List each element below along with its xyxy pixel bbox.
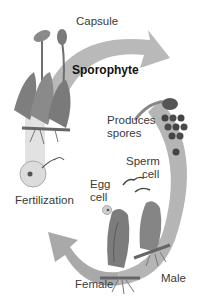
egg-cell-label: Egg cell <box>90 178 110 204</box>
fertilization-label: Fertilization <box>15 194 74 207</box>
sporophyte-label: Sporophyte <box>72 64 139 77</box>
produces-spores-label: Produces spores <box>107 114 156 140</box>
female-label: Female <box>75 278 113 291</box>
male-gametophyte-icon <box>0 0 205 299</box>
moss-life-cycle-diagram: Capsule Sporophyte Produces spores Sperm… <box>0 0 205 299</box>
male-label: Male <box>161 272 186 285</box>
capsule-label: Capsule <box>76 15 118 28</box>
sperm-cell-label: Sperm cell <box>126 155 160 181</box>
